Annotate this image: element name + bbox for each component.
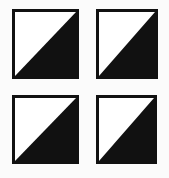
tile-bottom-right [96,95,157,164]
diagonal-fill-icon [15,98,76,161]
tile-grid [0,0,169,178]
tile-bottom-left [12,95,79,164]
diagonal-fill-icon [99,12,155,76]
tile-top-right [96,9,158,79]
tile-top-left [12,9,79,79]
diagonal-fill-icon [99,98,154,161]
diagonal-fill-icon [15,12,76,76]
